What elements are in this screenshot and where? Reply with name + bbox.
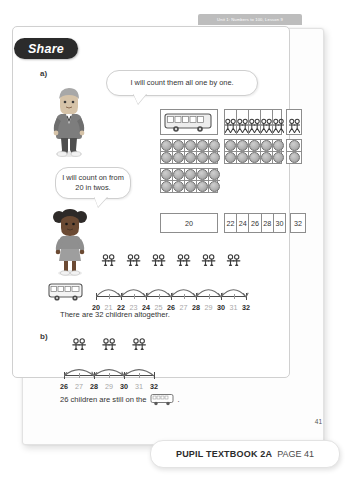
part-a-label: a) — [40, 69, 47, 78]
counter-cell — [197, 152, 209, 163]
number-box: 28 — [262, 214, 274, 232]
page-number: 41 — [315, 418, 322, 425]
ten-frame-right-1 — [224, 139, 282, 164]
stick-figure-icon — [127, 255, 133, 266]
number-line-label: 31 — [135, 382, 143, 391]
counter-dot-icon — [173, 181, 184, 192]
counter-dot-icon — [237, 152, 248, 163]
number-box: 24 — [237, 214, 249, 232]
counter-dot-icon — [197, 181, 208, 192]
bus-icon — [150, 393, 175, 406]
counter-dot-icon — [197, 152, 208, 163]
number-line-label: 32 — [150, 382, 158, 391]
counter-dot-icon — [173, 169, 184, 180]
counter-cell — [161, 140, 173, 152]
stick-figure-icon — [261, 119, 267, 132]
counter-cell — [237, 140, 249, 152]
stick-figure-icon — [289, 119, 295, 132]
counter-dot-icon — [289, 152, 300, 163]
stick-figure-icon — [139, 339, 145, 350]
unit-lesson-tab: Unit 1: Numbers to 100, Lesson 9 — [198, 14, 302, 25]
counter-dot-icon — [161, 181, 172, 192]
bus-icon — [164, 112, 214, 133]
footer-book-title: PUPIL TEXTBOOK 2A — [176, 449, 272, 459]
stick-figure-icon — [208, 255, 214, 266]
speech-bubble-girl-text: I will count on from 20 in twos. — [56, 173, 130, 193]
character-girl — [50, 205, 90, 277]
counter-dot-icon — [185, 140, 196, 151]
jump-arc — [221, 290, 246, 297]
stick-figure-icon — [133, 339, 139, 350]
counter-dot-icon — [185, 152, 196, 163]
counter-cell — [209, 140, 220, 152]
character-boy — [48, 86, 90, 158]
speech-bubble-boy-tail — [133, 93, 147, 104]
counter-cell — [249, 152, 261, 163]
speech-bubble-girl: I will count on from 20 in twos. — [55, 167, 131, 199]
stick-figure-icon — [103, 339, 109, 350]
ten-frame-right-extra — [286, 139, 302, 164]
counter-dot-icon — [161, 169, 172, 180]
counter-cell — [249, 140, 261, 152]
footer-badge: PUPIL TEXTBOOK 2A PAGE 41 — [150, 440, 340, 468]
counter-cell — [287, 152, 301, 163]
speech-bubble-girl-tail — [94, 196, 108, 207]
sentence-b-pre: 26 children are still on the — [60, 395, 147, 404]
number-line-label: 28 — [192, 303, 200, 312]
stick-figure-icon — [158, 255, 164, 266]
people-cell — [225, 110, 237, 134]
counter-cell — [185, 140, 197, 152]
bus-picture-box — [160, 109, 218, 135]
counter-dot-icon — [197, 169, 208, 180]
stick-figure-icon — [273, 119, 279, 132]
counter-cell — [209, 169, 220, 181]
stick-figure-icon — [249, 119, 255, 132]
counter-cell — [197, 140, 209, 152]
ten-frame-left-1 — [160, 139, 218, 164]
counter-dot-icon — [225, 140, 236, 151]
counter-dot-icon — [273, 140, 284, 151]
counter-dot-icon — [197, 140, 208, 151]
number-box: 26 — [249, 214, 261, 232]
stick-figure-icon — [230, 119, 236, 132]
counter-cell — [197, 169, 209, 181]
people-cell — [249, 110, 261, 134]
number-line-label: 27 — [180, 303, 188, 312]
jump-arc — [121, 290, 146, 297]
sentence-b-post: . — [178, 395, 180, 404]
counter-dot-icon — [249, 152, 260, 163]
stick-figure-icon — [233, 255, 239, 266]
jump-arc — [146, 290, 171, 297]
counter-cell — [209, 181, 220, 192]
counter-dot-icon — [261, 152, 272, 163]
jump-arc — [64, 370, 94, 376]
counter-cell — [173, 140, 185, 152]
counter-dot-icon — [185, 169, 196, 180]
counter-cell — [225, 152, 237, 163]
number-line-label: 28 — [90, 382, 98, 391]
counter-cell — [225, 140, 237, 152]
speech-bubble-boy-text: I will count them all one by one. — [124, 78, 239, 88]
counter-dot-icon — [237, 140, 248, 151]
counter-dot-icon — [273, 152, 284, 163]
stick-figure-icon — [294, 119, 300, 132]
counter-cell — [261, 152, 273, 163]
counter-cell — [161, 169, 173, 181]
counter-cell — [185, 169, 197, 181]
people-cell — [261, 110, 273, 134]
counter-cell — [185, 152, 197, 163]
number-line-a-figures — [96, 250, 256, 266]
counter-cell — [237, 152, 249, 163]
counter-dot-icon — [161, 140, 172, 151]
counter-cell — [173, 181, 185, 192]
number-line-a-jumps — [96, 262, 256, 298]
people-cell — [273, 110, 284, 134]
counter-dot-icon — [209, 181, 220, 192]
number-line-label: 30 — [217, 303, 225, 312]
sentence-b-result: 26 children are still on the . — [60, 393, 180, 406]
part-b-label: b) — [40, 332, 48, 341]
jump-arrowhead — [243, 293, 248, 297]
number-box: 30 — [274, 214, 285, 232]
counter-dot-icon — [289, 140, 300, 151]
number-box-first: 20 — [160, 213, 218, 233]
